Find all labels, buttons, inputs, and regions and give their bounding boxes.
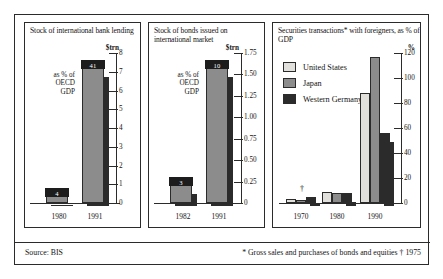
panel-2-tickmark [234, 203, 243, 204]
panel-1-ytick-6: 6 [119, 87, 141, 95]
panel-1-xlabel-1991: 1991 [88, 212, 103, 221]
panel-3-ytick-60: 60 [404, 124, 420, 132]
panel-2-ytick-1.00: 1.00 [244, 113, 266, 121]
panel-3-bar-1990-western-germany [380, 133, 390, 203]
panel-2-tickmark [234, 139, 243, 140]
panel-1-value-chip-1980: 4 [45, 188, 69, 197]
panel-3-bar-1980-united-states [322, 192, 332, 203]
panel-bank-lending: Stock of international bank lending $trn… [24, 22, 141, 228]
panel-3-bar-1990-united-states [360, 93, 370, 203]
panel-1-ytick-7: 7 [119, 68, 141, 76]
panel-2-tickmark [234, 117, 243, 118]
panel-1-tickmark [109, 147, 118, 148]
panel-1-bar-shadow [51, 205, 73, 206]
panel-3-bar-1970-japan [296, 200, 306, 203]
panel-3-bar-1980-japan [332, 193, 342, 203]
panel-1-tickmark [109, 128, 118, 129]
dagger-marker-icon: † [300, 184, 304, 193]
panel-2-ytick-1.50: 1.50 [244, 70, 266, 78]
panel-2-plot: 310 [154, 53, 236, 203]
panel-1-value-chip-1991: 41 [81, 60, 105, 69]
panel-2-ytick-0.50: 0.50 [244, 156, 266, 164]
panel-2-tickmark [234, 160, 243, 161]
panels-row: Stock of international bank lending $trn… [15, 15, 430, 237]
panel-3-tickmark [394, 178, 403, 179]
panel-3-bar-shadow [310, 204, 320, 206]
panel-1-title: Stock of international bank lending [30, 26, 134, 35]
panel-1-ytick-5: 5 [119, 105, 141, 113]
panel-3-xlabel-1980: 1980 [330, 212, 345, 221]
panel-3-plot [279, 53, 397, 203]
panel-3-ytick-80: 80 [404, 99, 420, 107]
panel-3-bar-1990-japan [370, 57, 380, 203]
panel-2-unit-label: $trn [226, 44, 239, 52]
panel-1-ytick-8: 8 [119, 49, 141, 57]
panel-1-ytick-2: 2 [119, 162, 141, 170]
panel-1-plot: 441 [30, 53, 116, 203]
source-label: Source: BIS [25, 248, 63, 257]
panel-3-tickmark [394, 128, 403, 129]
panel-bond-stock: Stock of bonds issued on international m… [148, 22, 265, 228]
panel-2-ytick-0.25: 0.25 [244, 178, 266, 186]
panel-2-bar-1982 [170, 185, 192, 203]
panel-3-baseline [279, 203, 401, 204]
panel-3-tickmark [394, 53, 403, 54]
panel-1-tickmark [109, 109, 118, 110]
panel-1-xlabel-1980: 1980 [52, 212, 67, 221]
panel-2-xlabel-1982: 1982 [176, 212, 191, 221]
panel-3-title: Securities transactions* with foreigners… [278, 26, 420, 45]
panel-3-xlabel-1970: 1970 [294, 212, 309, 221]
panel-3-bar-1980-western-germany [342, 193, 352, 203]
panel-2-tickmark [234, 96, 243, 97]
panel-2-ytick-1.75: 1.75 [244, 49, 266, 57]
footnote-label: * Gross sales and purchases of bonds and… [242, 248, 421, 257]
panel-3-ytick-120: 120 [404, 49, 420, 57]
panel-3-ytick-100: 100 [404, 74, 420, 82]
panel-3-tickmark [394, 203, 403, 204]
panel-2-xlabel-1991: 1991 [212, 212, 227, 221]
panel-1-tickmark [109, 91, 118, 92]
panel-3-xlabel-1990: 1990 [368, 212, 383, 221]
panel-3-tickmark [394, 153, 403, 154]
panel-2-tickmark [234, 74, 243, 75]
panel-1-tickmark [109, 184, 118, 185]
panel-securities-transactions: Securities transactions* with foreigners… [272, 22, 421, 228]
panel-1-tickmark [109, 203, 118, 204]
panel-2-tickmark [234, 53, 243, 54]
panel-3-tickmark [394, 78, 403, 79]
panel-1-tickmark [109, 53, 118, 54]
panel-2-ytick-1.25: 1.25 [244, 92, 266, 100]
panel-2-ytick-0.75: 0.75 [244, 135, 266, 143]
panel-3-ytick-0: 0 [404, 199, 420, 207]
panel-1-unit-label: $trn [106, 44, 119, 52]
panel-1-ytick-0: 0 [119, 199, 141, 207]
panel-3-tickmark [394, 103, 403, 104]
panel-1-tickmark [109, 72, 118, 73]
panel-1-ytick-4: 4 [119, 124, 141, 132]
panel-3-bar-1970-western-germany [306, 197, 316, 203]
panel-2-bar-1991 [206, 68, 228, 203]
panel-2-value-chip-1991: 10 [205, 60, 229, 69]
figure-footer: Source: BIS * Gross sales and purchases … [15, 242, 430, 264]
chart-figure: Stock of international bank lending $trn… [14, 14, 429, 265]
panel-1-tickmark [109, 166, 118, 167]
panel-2-title: Stock of bonds issued on international m… [154, 26, 264, 45]
panel-2-ytick-0: 0 [244, 199, 266, 207]
panel-1-ytick-3: 3 [119, 143, 141, 151]
panel-3-ytick-20: 20 [404, 174, 420, 182]
panel-3-bar-1970-united-states [286, 199, 296, 203]
panel-2-tickmark [234, 182, 243, 183]
panel-1-ytick-1: 1 [119, 180, 141, 188]
panel-3-ytick-40: 40 [404, 149, 420, 157]
panel-1-bar-1991 [82, 68, 104, 203]
panel-2-value-chip-1982: 3 [169, 177, 193, 186]
